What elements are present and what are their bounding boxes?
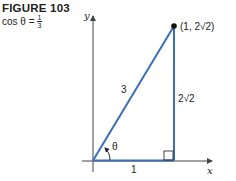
angle-label: θ	[112, 141, 118, 152]
right-angle-marker	[164, 151, 173, 160]
hypotenuse-label: 3	[121, 84, 127, 95]
adjacent-label: 1	[131, 164, 137, 175]
opposite-label: 2√2	[178, 93, 195, 104]
y-axis-label: y	[83, 10, 90, 21]
x-axis-label: x	[207, 165, 213, 176]
angle-arc-icon	[105, 148, 110, 160]
triangle-diagram: (1, 2√2) 3 2√2 1 θ x y	[0, 0, 236, 181]
point-label: (1, 2√2)	[180, 21, 214, 32]
hypotenuse	[93, 26, 174, 161]
point-marker	[171, 23, 177, 29]
